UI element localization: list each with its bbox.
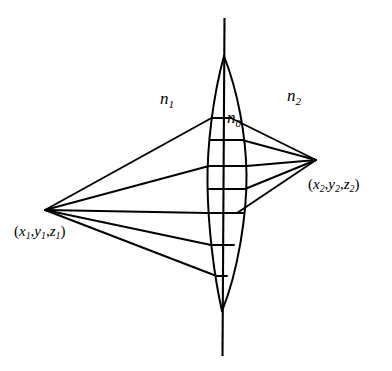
n1-symbol: n: [160, 89, 169, 108]
n2-symbol: n: [287, 86, 296, 105]
lens-outline-group: [207, 56, 246, 311]
p1-z-subscript: 1: [56, 230, 61, 241]
p2-x: x: [313, 176, 320, 192]
n0-symbol: n: [227, 108, 236, 127]
refractive-index-label-n1: n1: [160, 90, 174, 107]
lens-right-surface: [222, 56, 247, 311]
p1-y-subscript: 1: [41, 230, 46, 241]
object-point-label: (x1,y1,z1): [14, 224, 66, 239]
incident-ray-5: [45, 210, 217, 276]
incident-ray-1: [45, 118, 212, 210]
incident-ray-4: [45, 210, 211, 245]
p2-close-paren: ): [355, 176, 360, 192]
incident-rays-group: [45, 118, 217, 276]
p1-x-subscript: 1: [26, 230, 31, 241]
lens-ray-diagram: n1 n0 n2 (x1,y1,z1) (x2,y2,z2): [0, 0, 392, 371]
refractive-index-label-n2: n2: [287, 87, 301, 104]
p1-close-paren: ): [61, 223, 66, 239]
p1-z: z: [50, 223, 56, 239]
p2-z-subscript: 2: [350, 183, 355, 194]
n1-subscript: 1: [169, 98, 175, 110]
p2-z: z: [344, 176, 350, 192]
p2-x-subscript: 2: [320, 183, 325, 194]
n0-subscript: 0: [236, 117, 242, 129]
n2-subscript: 2: [296, 95, 302, 107]
p1-x: x: [19, 223, 26, 239]
refracted-ray-2: [242, 140, 316, 160]
incident-ray-3: [45, 210, 208, 213]
p2-y-subscript: 2: [335, 183, 340, 194]
image-point-label: (x2,y2,z2): [308, 177, 360, 192]
incident-ray-2: [45, 166, 209, 210]
lens-chords-group: [208, 118, 247, 276]
refractive-index-label-n0: n0: [227, 109, 241, 126]
